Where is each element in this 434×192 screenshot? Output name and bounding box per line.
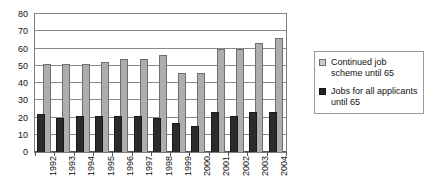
bar-jobs-for-all-applicants — [230, 116, 238, 152]
x-axis-labels: 1992199319941995199619971998199920002001… — [35, 156, 286, 192]
bars-layer — [35, 14, 286, 152]
bar-group — [170, 14, 189, 152]
bar-group — [54, 14, 73, 152]
legend-item-continued-job-scheme: Continued job scheme until 65 — [319, 57, 419, 79]
legend-item-label: Jobs for all applicants until 65 — [331, 86, 419, 108]
bar-group — [35, 14, 54, 152]
x-axis-tick-label: 1992 — [49, 156, 58, 176]
bar-jobs-for-all-applicants — [56, 118, 64, 153]
bar-group — [247, 14, 266, 152]
x-axis-tick-label: 2000 — [203, 156, 212, 176]
x-axis-tick-label: 1994 — [87, 156, 96, 176]
bar-jobs-for-all-applicants — [114, 116, 122, 152]
x-axis-tick-label: 1997 — [145, 156, 154, 176]
y-axis-tick-label: 50 — [18, 61, 28, 70]
light-gray-square-icon — [319, 59, 326, 66]
x-axis-tick-label: 1993 — [68, 156, 77, 176]
bar-jobs-for-all-applicants — [269, 112, 277, 152]
y-axis-tick-label: 60 — [18, 44, 28, 53]
x-axis-tick-label: 1999 — [184, 156, 193, 176]
legend-item-jobs-for-all-applicants: Jobs for all applicants until 65 — [319, 86, 419, 108]
x-axis-tick-label: 2004 — [280, 156, 289, 176]
y-axis-tick-label: 10 — [18, 130, 28, 139]
bar-group — [74, 14, 93, 152]
bar-jobs-for-all-applicants — [249, 112, 257, 152]
y-axis-tick-label: 20 — [18, 113, 28, 122]
y-axis-tick-label: 80 — [18, 10, 28, 19]
bar-jobs-for-all-applicants — [211, 112, 219, 152]
bar-group — [267, 14, 286, 152]
dark-filled-square-icon — [319, 88, 326, 95]
y-axis-tick-label: 30 — [18, 96, 28, 105]
y-axis-labels: 01020304050607080 — [0, 13, 32, 153]
bar-group — [151, 14, 170, 152]
x-axis-tick-label: 1995 — [107, 156, 116, 176]
y-axis-tick-label: 40 — [18, 79, 28, 88]
x-axis-tick-label: 1996 — [126, 156, 135, 176]
bar-jobs-for-all-applicants — [37, 114, 45, 152]
chart-legend: Continued job scheme until 65 Jobs for a… — [314, 51, 424, 114]
legend-item-label: Continued job scheme until 65 — [331, 57, 419, 79]
bar-group — [132, 14, 151, 152]
bar-jobs-for-all-applicants — [172, 123, 180, 152]
x-axis-tick-label: 2003 — [261, 156, 270, 176]
bar-group — [189, 14, 208, 152]
bar-jobs-for-all-applicants — [191, 126, 199, 152]
bar-group — [93, 14, 112, 152]
y-axis-tick-label: 0 — [23, 148, 28, 157]
bar-jobs-for-all-applicants — [95, 116, 103, 152]
x-axis-tick-label: 1998 — [165, 156, 174, 176]
bar-chart: 01020304050607080 1992199319941995199619… — [0, 0, 434, 192]
bar-jobs-for-all-applicants — [134, 116, 142, 152]
bar-group — [209, 14, 228, 152]
bar-jobs-for-all-applicants — [76, 116, 84, 152]
x-axis-tick-label: 2001 — [222, 156, 231, 176]
bar-group — [228, 14, 247, 152]
bar-group — [112, 14, 131, 152]
x-axis-tick-label: 2002 — [242, 156, 251, 176]
y-axis-tick-label: 70 — [18, 27, 28, 36]
bar-jobs-for-all-applicants — [153, 118, 161, 153]
